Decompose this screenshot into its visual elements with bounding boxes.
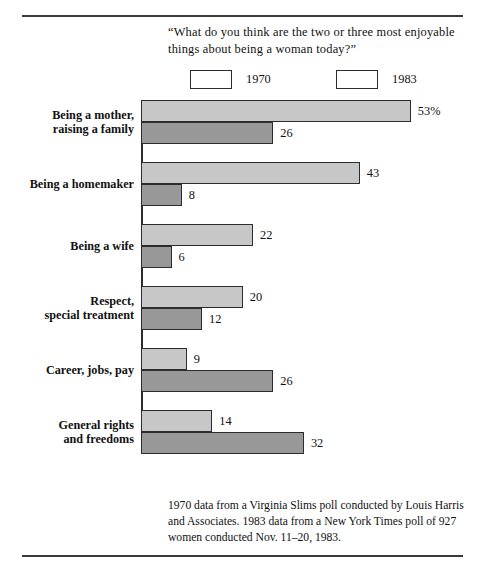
category-label-line: Being a homemaker	[0, 177, 134, 192]
bar-value-label: 6	[179, 246, 185, 268]
bar-1983	[141, 246, 172, 268]
category-label: Being a wife	[0, 239, 134, 254]
bar-group: Being a homemaker438	[0, 162, 483, 206]
category-label-line: raising a family	[0, 122, 134, 137]
bar-1970	[141, 286, 243, 308]
bar-1983	[141, 308, 202, 330]
bar-1983	[141, 122, 273, 144]
chart-figure: “What do you think are the two or three …	[0, 0, 483, 573]
bar-value-label: 22	[260, 224, 272, 246]
legend-label-1970: 1970	[246, 72, 271, 87]
chart-plot-area: Being a mother,raising a family53%26Bein…	[0, 100, 483, 500]
legend-item-1983: 1983	[336, 70, 417, 89]
bar-1970	[141, 162, 360, 184]
legend-swatch-1983	[336, 70, 378, 89]
chart-legend: 1970 1983	[190, 70, 470, 92]
legend-label-1983: 1983	[392, 72, 417, 87]
bar-1970	[141, 224, 253, 246]
bar-1970	[141, 100, 411, 122]
bar-value-label: 26	[280, 122, 292, 144]
bar-value-label: 26	[280, 370, 292, 392]
legend-item-1970: 1970	[190, 70, 271, 89]
chart-question-title: “What do you think are the two or three …	[168, 24, 468, 58]
category-label: General rightsand freedoms	[0, 418, 134, 447]
bar-1983	[141, 432, 304, 454]
category-label: Career, jobs, pay	[0, 363, 134, 378]
bar-value-label: 20	[250, 286, 262, 308]
category-label: Respect,special treatment	[0, 294, 134, 323]
category-label-line: Career, jobs, pay	[0, 363, 134, 378]
bar-value-label: 14	[219, 410, 231, 432]
category-label-line: Being a mother,	[0, 108, 134, 123]
category-label: Being a mother,raising a family	[0, 108, 134, 137]
category-label: Being a homemaker	[0, 177, 134, 192]
bar-value-label: 9	[194, 348, 200, 370]
bottom-rule	[22, 555, 463, 557]
bar-group: Being a mother,raising a family53%26	[0, 100, 483, 144]
bar-value-label: 32	[311, 432, 323, 454]
category-label-line: Respect,	[0, 294, 134, 309]
bar-group: General rightsand freedoms1432	[0, 410, 483, 454]
bar-group: Being a wife226	[0, 224, 483, 268]
chart-baseline-axis	[141, 100, 143, 454]
category-label-line: and freedoms	[0, 432, 134, 447]
bar-value-label: 43	[367, 162, 379, 184]
bar-1970	[141, 348, 187, 370]
bar-1970	[141, 410, 212, 432]
bar-value-label: 8	[189, 184, 195, 206]
category-label-line: Being a wife	[0, 239, 134, 254]
top-rule	[22, 15, 463, 17]
bar-value-label: 12	[209, 308, 221, 330]
bar-group: Career, jobs, pay926	[0, 348, 483, 392]
category-label-line: special treatment	[0, 308, 134, 323]
bar-1983	[141, 184, 182, 206]
chart-source-note: 1970 data from a Virginia Slims poll con…	[168, 498, 473, 546]
category-label-line: General rights	[0, 418, 134, 433]
legend-swatch-1970	[190, 70, 232, 89]
bar-value-label: 53%	[418, 100, 441, 122]
bar-1983	[141, 370, 273, 392]
bar-group: Respect,special treatment2012	[0, 286, 483, 330]
